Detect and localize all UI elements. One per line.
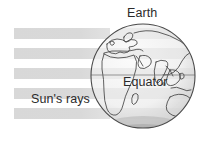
label-suns-rays: Sun's rays: [31, 92, 90, 106]
sun-ray-band: [14, 28, 110, 39]
globe-shadow: [87, 116, 199, 142]
sun-ray-band: [14, 108, 110, 119]
suns-rays-earth-diagram: Earth Equator Sun's rays: [0, 0, 200, 142]
coastline-island-newzealand: [191, 115, 194, 119]
label-earth: Earth: [127, 6, 157, 20]
diagram-canvas: [0, 0, 200, 142]
label-equator: Equator: [123, 75, 167, 89]
